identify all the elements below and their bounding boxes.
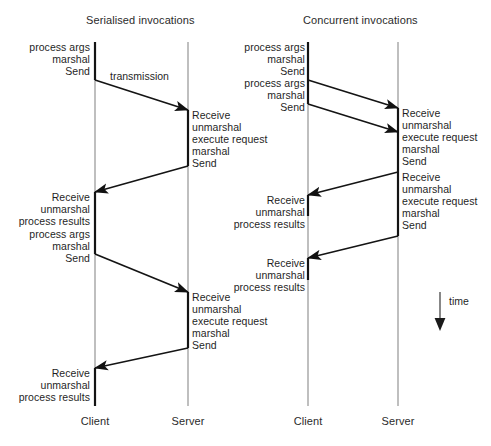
serialised-server-block-1: Receive unmarshal execute request marsha… xyxy=(192,109,302,169)
message-arrow-request-3 xyxy=(308,80,398,108)
serialised-client-block-4: Receive unmarshal process results xyxy=(0,367,90,403)
serialised-client-block-1: process args marshal Send xyxy=(0,41,90,77)
message-arrow-request-2 xyxy=(95,254,188,292)
concurrent-client-block-2: process args marshal Send xyxy=(215,77,305,113)
message-arrow-reply-2 xyxy=(95,348,188,368)
message-arrow-reply-3 xyxy=(308,172,398,195)
serialised-server-lifeline-label: Server xyxy=(163,415,213,427)
serialised-client-block-2: Receive unmarshal process results xyxy=(0,191,90,227)
concurrent-server-block-1: Receive unmarshal execute request marsha… xyxy=(402,107,491,167)
concurrent-server-block-2: Receive unmarshal execute request marsha… xyxy=(402,171,491,231)
time-axis-arrow xyxy=(435,292,446,331)
serialised-client-lifeline-label: Client xyxy=(70,415,120,427)
concurrent-client-lifeline-label: Client xyxy=(283,415,333,427)
transmission-label: transmission xyxy=(110,70,169,82)
rpc-sequence-diagram: Serialised invocations Concurrent invoca… xyxy=(0,0,491,446)
panel-title-serialised: Serialised invocations xyxy=(86,14,195,26)
message-arrow-request-4 xyxy=(308,104,398,132)
message-arrow-reply-4 xyxy=(308,236,398,258)
time-axis-label: time xyxy=(449,295,469,307)
panel-title-concurrent: Concurrent invocations xyxy=(303,14,418,26)
concurrent-client-block-4: Receive unmarshal process results xyxy=(215,257,305,293)
serialised-server-block-2: Receive unmarshal execute request marsha… xyxy=(192,291,302,351)
message-arrow-request-1 xyxy=(95,80,188,110)
concurrent-server-lifeline-label: Server xyxy=(373,415,423,427)
concurrent-client-block-1: process args marshal Send xyxy=(215,41,305,77)
message-arrow-reply-1 xyxy=(95,166,188,192)
concurrent-client-block-3: Receive unmarshal process results xyxy=(215,194,305,230)
serialised-client-block-3: process args marshal Send xyxy=(0,228,90,264)
